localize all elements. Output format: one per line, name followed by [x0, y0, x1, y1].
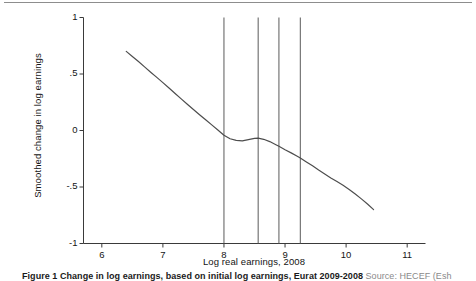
figure-page: Smoothed change in log earnings Log real…	[0, 0, 476, 281]
x-tick-label-2: 8	[209, 250, 239, 260]
caption-source: Source: HECEF (Esh	[366, 271, 452, 281]
y-tick-label-0: 1	[44, 12, 78, 22]
y-tick-label-3: -.5	[44, 181, 78, 191]
y-tick-label-2: 0	[44, 125, 78, 135]
figure-caption: Figure 1 Change in log earnings, based o…	[22, 271, 466, 281]
data-series-line	[126, 51, 373, 209]
x-tick-label-5: 11	[392, 250, 422, 260]
series-line-1	[126, 51, 373, 209]
x-tick-label-3: 9	[270, 250, 300, 260]
x-tick-label-0: 6	[87, 250, 117, 260]
caption-title: Figure 1 Change in log earnings, based o…	[22, 271, 363, 281]
y-axis-title: Smoothed change in log earnings	[32, 26, 43, 226]
reference-vertical-lines	[224, 18, 300, 244]
figure-container: Smoothed change in log earnings Log real…	[0, 0, 476, 281]
plot-axes	[80, 18, 426, 248]
y-tick-label-4: -1	[44, 238, 78, 248]
y-tick-label-1: .5	[44, 68, 78, 78]
x-tick-label-4: 10	[331, 250, 361, 260]
x-tick-label-1: 7	[148, 250, 178, 260]
x-axis-title: Log real earnings, 2008	[83, 256, 425, 267]
